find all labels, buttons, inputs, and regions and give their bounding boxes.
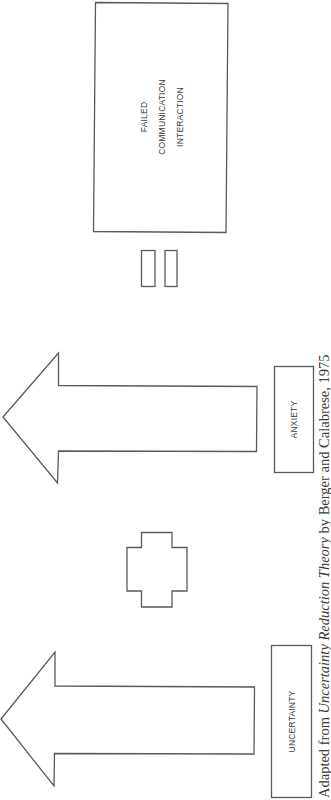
result-line-2: COMMUNICATION [157,79,167,155]
caption-title: Uncertainty Reduction Theory [316,537,331,714]
uncertainty-label: UNCERTAINTY [287,690,297,752]
equals-sign-icon [142,251,178,287]
anxiety-label: ANXIETY [289,400,299,438]
uncertainty-reduction-diagram: FAILED COMMUNICATION INTERACTION ANXIETY… [0,0,331,800]
anxiety-label-box: ANXIETY [275,367,314,473]
caption-prefix: Adapted from [316,713,331,798]
figure-caption: Adapted from Uncertainty Reduction Theor… [316,355,331,798]
result-line-1: FAILED [139,102,149,133]
plus-sign-icon [127,533,187,608]
anxiety-arrow-icon [3,353,257,483]
uncertainty-label-box: UNCERTAINTY [272,646,312,798]
uncertainty-arrow-icon [1,652,255,786]
caption-suffix: by Berger and Calabrese, 1975 [316,355,331,538]
svg-text:Adapted from Uncertainty Reduc: Adapted from Uncertainty Reduction Theor… [316,355,331,798]
result-line-3: INTERACTION [175,87,185,147]
failed-communication-box: FAILED COMMUNICATION INTERACTION [94,3,229,233]
